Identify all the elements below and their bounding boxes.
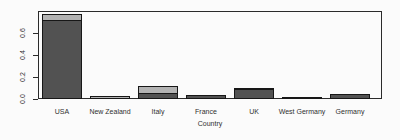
bar-west-germany — [282, 97, 322, 99]
y-tick-mark — [33, 77, 38, 78]
bar-usa — [42, 14, 82, 99]
bar-uk — [234, 88, 274, 99]
bar-italy — [138, 86, 178, 99]
bar-chart: Country USANew ZealandItalyFranceUKWest … — [0, 0, 400, 140]
bar-new-zealand — [90, 96, 130, 99]
bar-segment-dark-segment — [186, 95, 226, 99]
y-tick-mark — [33, 55, 38, 56]
y-tick-mark — [33, 99, 38, 100]
bar-segment-dark-segment — [42, 20, 82, 99]
x-axis-title: Country — [180, 120, 240, 127]
plot-frame — [38, 11, 382, 99]
bar-france — [186, 95, 226, 99]
bar-segment-dark-segment — [138, 93, 178, 99]
bar-segment-dark-segment — [330, 94, 370, 99]
x-tick-label-germany: Germany — [320, 108, 380, 115]
bar-segment-dark-segment — [234, 89, 274, 99]
bar-segment-light-segment — [90, 96, 130, 99]
bar-segment-light-segment — [282, 97, 322, 99]
y-tick-mark — [33, 33, 38, 34]
bar-germany — [330, 94, 370, 99]
y-tick-label-0.6: 0.6 — [18, 18, 28, 48]
